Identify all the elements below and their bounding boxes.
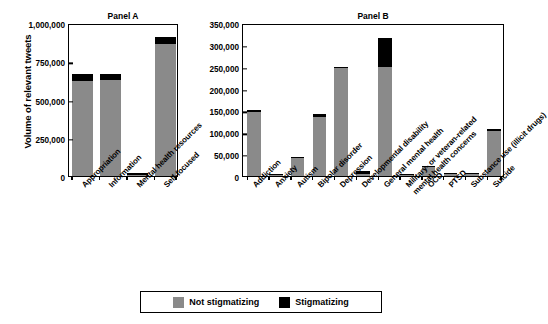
panel-b-y-tick-mark: [243, 134, 247, 135]
panel-b-y-tick-mark: [243, 68, 247, 69]
panel-b-x-tick-mark: [247, 176, 248, 180]
bar-segment-stigmatizing: [378, 38, 392, 66]
panel-b-y-tick-label: 100,000: [209, 130, 239, 139]
legend-label-not-stigmatizing: Not stigmatizing: [189, 297, 259, 307]
panel-b-y-tick-label: 300,000: [209, 42, 239, 51]
bar-segment-not-stigmatizing: [72, 81, 93, 176]
panel-a-y-tick-label: 250,000: [35, 135, 65, 144]
panel-a-plot-area: 0250,000500,000750,0001,000,000: [68, 24, 178, 177]
bar-appropriation: [72, 74, 93, 176]
bar-segment-stigmatizing: [487, 129, 501, 130]
panel-b-y-tick-mark: [243, 46, 247, 47]
bar-segment-stigmatizing: [334, 67, 348, 68]
bar-addiction: [247, 110, 261, 176]
panel-b-title: Panel B: [242, 11, 504, 21]
bar-segment-not-stigmatizing: [247, 112, 261, 176]
panel-a-y-tick-mark: [69, 139, 73, 140]
bar-segment-stigmatizing: [155, 37, 176, 44]
panel-a-y-tick-label: 0: [60, 174, 65, 183]
panel-b-plot-area: 050,000100,000150,000200,000250,000300,0…: [242, 24, 504, 177]
panel-b-y-tick-label: 250,000: [209, 64, 239, 73]
legend-label-stigmatizing: Stigmatizing: [295, 297, 349, 307]
panel-b-y-tick-mark: [243, 155, 247, 156]
panel-a: Panel A 0250,000500,000750,0001,000,000 …: [68, 24, 178, 177]
panel-a-y-tick-label: 500,000: [35, 97, 65, 106]
bar-segment-stigmatizing: [72, 74, 93, 81]
panel-b: Panel B 050,000100,000150,000200,000250,…: [242, 24, 504, 177]
legend: Not stigmatizing Stigmatizing: [140, 291, 382, 313]
panel-a-x-tick-mark: [126, 176, 127, 180]
panel-b-y-tick-label: 200,000: [209, 86, 239, 95]
panel-b-y-tick-label: 150,000: [209, 108, 239, 117]
panel-a-y-tick-label: 750,000: [35, 59, 65, 68]
panel-a-y-tick-mark: [69, 101, 73, 102]
panel-b-y-tick-label: 50,000: [214, 152, 239, 161]
legend-item-stigmatizing: Stigmatizing: [279, 297, 349, 308]
panel-b-y-tick-mark: [243, 112, 247, 113]
panel-b-bars: [243, 25, 503, 176]
legend-swatch-stigmatizing: [279, 297, 290, 308]
panel-a-x-tick-mark: [71, 176, 72, 180]
bar-segment-stigmatizing: [291, 157, 305, 158]
panel-a-y-tick-label: 1,000,000: [29, 21, 65, 30]
panel-b-y-tick-label: 350,000: [209, 21, 239, 30]
legend-item-not-stigmatizing: Not stigmatizing: [173, 297, 259, 308]
panel-a-bars: [69, 25, 177, 176]
bar-segment-stigmatizing: [247, 110, 261, 112]
bar-segment-stigmatizing: [313, 114, 327, 117]
panel-b-y-tick-mark: [243, 90, 247, 91]
bar-segment-stigmatizing: [100, 74, 121, 81]
panel-a-title: Panel A: [68, 11, 178, 21]
panel-b-y-tick-label: 0: [234, 174, 239, 183]
legend-swatch-not-stigmatizing: [173, 297, 184, 308]
y-axis-title: Volume of relevant tweets: [22, 7, 33, 177]
panel-a-y-tick-mark: [69, 63, 73, 64]
